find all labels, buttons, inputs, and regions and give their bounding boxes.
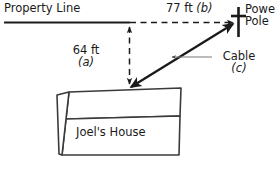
distance-b-variable: (b) [196, 1, 212, 15]
cable-label: Cable(c) [216, 50, 262, 75]
distance-a-variable: (a) [78, 55, 94, 69]
distance-b-label: 77 ft (b) [166, 2, 213, 14]
property-line-label: Property Line [4, 2, 80, 14]
power-pole-label: PowePole [245, 3, 275, 28]
power-pole-label-line2: Pole [245, 14, 269, 28]
house-label: Joel's House [76, 126, 146, 138]
house-box-icon [57, 88, 181, 155]
distance-b-value: 77 ft [166, 1, 193, 15]
cable-label-variable: (c) [231, 61, 246, 75]
power-pole-icon [231, 7, 246, 37]
distance-a-label: 64 ft(a) [62, 44, 110, 69]
diagram-graphics [0, 0, 280, 192]
diagram-canvas: Property Line 77 ft (b) PowePole 64 ft(a… [0, 0, 280, 192]
